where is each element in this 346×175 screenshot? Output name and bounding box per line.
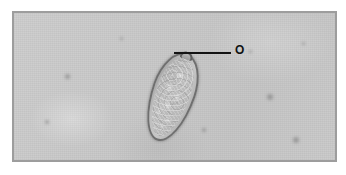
debris-speck (65, 74, 70, 79)
debris-speck (249, 50, 252, 53)
annotation-label-o: O (235, 44, 244, 56)
figure-container: O (0, 0, 346, 175)
debris-speck (302, 42, 305, 45)
micrograph-frame: O (12, 11, 337, 162)
debris-speck (202, 128, 206, 132)
debris-speck (293, 137, 299, 143)
debris-speck (120, 37, 123, 40)
debris-speck (267, 94, 273, 100)
debris-speck (45, 120, 49, 124)
annotation-leader-line-icon (174, 52, 231, 54)
